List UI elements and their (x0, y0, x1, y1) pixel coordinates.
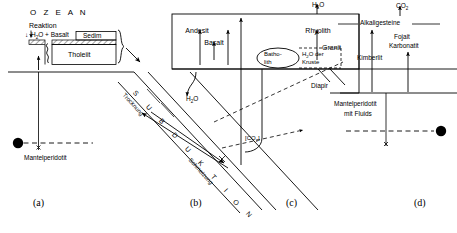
mantle-source-dot-a (13, 138, 23, 148)
kimberlite-label: Kimberlit (357, 55, 382, 62)
ocean-label: O Z E A N (30, 9, 88, 17)
reaction-label: Reaktion (29, 22, 57, 29)
diapir-label: Diapir (311, 83, 328, 90)
crust-water-line2: Kruste (302, 59, 319, 65)
rhyolite-label: Rhyolith (305, 27, 330, 34)
panel-label-a: (a) (33, 198, 44, 208)
panel-b-linework (118, 72, 318, 213)
panel-d-linework (330, 6, 457, 146)
batholith-label-line2: lith (264, 59, 272, 65)
co2-bracket-label: [CO2] (245, 135, 260, 141)
panel-label-d: (d) (414, 198, 426, 208)
slab-tick-1 (147, 89, 160, 103)
brace-to-subduction-arrow (126, 48, 140, 62)
panel-a-linework (8, 30, 140, 150)
basalt-label: Basalt (204, 39, 223, 46)
crust-water-line1: H2O der (302, 51, 324, 57)
carbonatite-label-line2: Karbonatit (389, 43, 419, 50)
batholith-label-line1: Batho- (264, 51, 282, 57)
slab-top-boundary (134, 72, 262, 210)
reaction-down-arrow: ↓ (25, 32, 28, 39)
mantle-source-dot-d (436, 126, 446, 136)
diapir-shoulder-right (330, 69, 345, 85)
mantle-peridotite-label-d: Mantelperidotit (334, 101, 377, 108)
slab-water-label: H2O (186, 96, 198, 103)
panel-label-b: (b) (190, 198, 202, 208)
hydrothermal-wavy-path (46, 44, 48, 64)
foyaite-label-line1: Fojait (394, 34, 410, 41)
andesite-label: Andesit (185, 27, 208, 34)
reaction-formula: H2O + Basalt (31, 32, 69, 39)
sediment-label: Sedim (83, 33, 101, 40)
slab-tick-2 (161, 103, 174, 117)
slab-water-release-arrow (187, 72, 196, 96)
mantle-fluids-label: mit Fluids (344, 111, 372, 118)
co2-escape-label: CO2 (396, 3, 408, 10)
granite-label: Granit (322, 44, 341, 51)
alkaline-rocks-label: Alkaligesteine (360, 20, 400, 27)
altered-crust-hatch (52, 40, 116, 45)
partial-melt-dashed-line (214, 62, 343, 122)
mantle-peridotite-label-a: Mantelperidotit (24, 155, 67, 162)
slab-outer-left-line (118, 82, 240, 213)
figure-canvas: O Z E A N Reaktion ↓ H2O + Basalt Sedim … (0, 0, 457, 233)
water-escape-label: H2O (312, 2, 324, 9)
panel-label-c: (c) (286, 198, 297, 208)
tholeiite-label: Tholeiit (68, 51, 91, 58)
altered-crust-hatch-left (29, 40, 45, 45)
co2-dashed-arrow (222, 130, 303, 148)
crust-brace (118, 30, 124, 63)
